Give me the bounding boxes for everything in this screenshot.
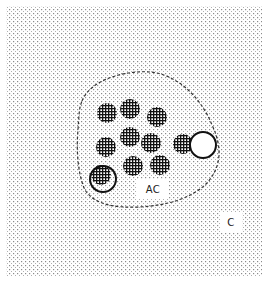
- open-circle: [190, 132, 216, 158]
- filled-crosshatch-circle: [141, 133, 161, 153]
- filled-crosshatch-circle: [120, 127, 140, 147]
- region-label-ac: AC: [137, 179, 169, 199]
- filled-crosshatch-circle: [120, 99, 140, 119]
- filled-crosshatch-circle: [123, 156, 143, 176]
- filled-crosshatch-circle: [96, 137, 116, 157]
- region-label-c: C: [220, 212, 242, 232]
- filled-crosshatch-circle: [147, 107, 167, 127]
- diagram-canvas: [0, 0, 268, 281]
- filled-crosshatch-circle: [150, 155, 170, 175]
- filled-crosshatch-circle: [97, 103, 117, 123]
